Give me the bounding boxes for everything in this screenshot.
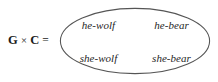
set-ellipse-container <box>59 6 211 76</box>
set-element-he-bear: he-bear <box>154 19 189 31</box>
equation-label: G × C = <box>8 31 49 49</box>
set-g-symbol: G <box>8 33 18 48</box>
set-element-she-bear: she-bear <box>152 52 191 64</box>
set-product-figure: G × C = he-wolf he-bear she-wolf she-bea… <box>0 0 218 82</box>
set-element-he-wolf: he-wolf <box>82 19 115 31</box>
equals-operator: = <box>42 34 49 46</box>
set-element-she-wolf: she-wolf <box>80 52 118 64</box>
multiplication-operator: × <box>21 35 27 46</box>
set-c-symbol: C <box>30 33 39 48</box>
